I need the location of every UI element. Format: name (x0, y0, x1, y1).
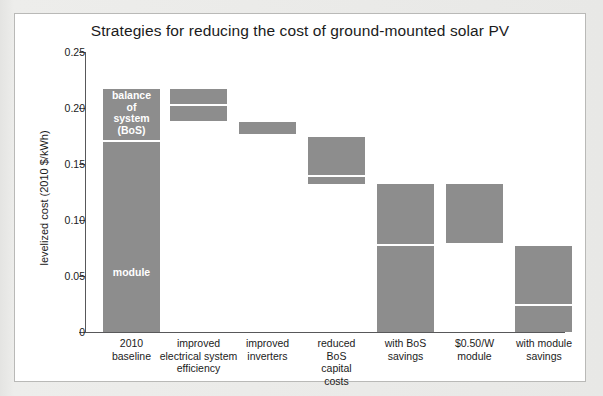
x-label-line: inverters (229, 350, 306, 363)
x-label-line: savings (504, 350, 584, 363)
x-label-line: reduced (298, 337, 375, 350)
x-label-line: with module (504, 337, 584, 350)
x-label-line: capital (298, 362, 375, 375)
bar-improved-inverters[interactable] (239, 122, 296, 134)
y-axis-line (85, 52, 86, 332)
y-tick-label: 0.25 (27, 46, 85, 58)
bar-segment-divider (515, 304, 572, 306)
bar-050-per-watt-module[interactable] (446, 184, 503, 243)
x-label-line: module (436, 350, 513, 363)
x-label-050-per-watt-module: $0.50/W module (436, 337, 513, 362)
x-label-with-module-savings: with module savings (504, 337, 584, 362)
x-label-improved-inverters: improved inverters (229, 337, 306, 362)
x-axis-line (85, 332, 565, 333)
segment-label-bos: balance of system (BoS) (103, 90, 160, 136)
x-label-line: savings (367, 350, 444, 363)
bar-segment-divider (308, 175, 365, 177)
bar-improved-electrical-system-efficiency[interactable] (170, 89, 227, 121)
x-label-line: costs (298, 375, 375, 388)
figure-frame: Strategies for reducing the cost of grou… (14, 13, 586, 382)
y-tick-label: 0.10 (27, 214, 85, 226)
segment-label-bos-line3: system (103, 113, 160, 125)
x-label-line: efficiency (155, 362, 242, 375)
x-label-line: BoS (298, 350, 375, 363)
bar-segment-divider (377, 244, 434, 246)
x-label-line: $0.50/W (436, 337, 513, 350)
plot-area: levelized cost (2010 $/kWh) 0.25 0.20 0.… (15, 14, 587, 383)
y-tick-label: 0.05 (27, 270, 85, 282)
segment-label-bos-line1: balance (103, 90, 160, 102)
bar-segment-divider (170, 104, 227, 106)
bar-2010-baseline[interactable]: balance of system (BoS) module (103, 89, 160, 332)
bar-reduced-bos-capital-costs[interactable] (308, 137, 365, 184)
bar-segment-divider (103, 140, 160, 142)
y-tick-label: 0.20 (27, 102, 85, 114)
bar-with-module-savings[interactable] (515, 246, 572, 332)
segment-label-bos-line4: (BoS) (103, 125, 160, 137)
bar-with-bos-savings[interactable] (377, 184, 434, 332)
x-label-reduced-bos-capital-costs: reduced BoS capital costs (298, 337, 375, 387)
x-label-line: improved (229, 337, 306, 350)
y-tick-label: 0.15 (27, 158, 85, 170)
x-label-with-bos-savings: with BoS savings (367, 337, 444, 362)
segment-label-bos-line2: of (103, 102, 160, 114)
x-label-line: with BoS (367, 337, 444, 350)
segment-label-module: module (103, 267, 160, 279)
y-tick-label: 0 (27, 326, 85, 338)
